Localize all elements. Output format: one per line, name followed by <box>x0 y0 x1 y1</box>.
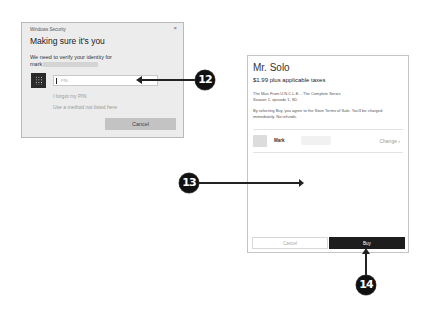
callout-13: 13 <box>179 173 199 193</box>
terms-text: By selecting Buy, you agree to the Store… <box>253 108 403 120</box>
product-title: Mr. Solo <box>253 62 290 73</box>
cancel-button[interactable]: Cancel <box>105 118 176 130</box>
change-label: Change <box>379 138 397 144</box>
avatar <box>253 135 267 147</box>
product-description: The Man From U.N.C.L.E. - The Complete S… <box>253 91 403 103</box>
product-price: $1.99 plus applicable taxes <box>253 77 325 83</box>
divider <box>253 129 403 130</box>
divider <box>253 152 403 153</box>
text-cursor <box>56 78 57 84</box>
callout-14-arrow <box>365 253 367 276</box>
dialog-heading: Making sure it's you <box>30 36 105 46</box>
change-payment-link[interactable]: Change › <box>379 138 400 144</box>
callout-12: 12 <box>195 70 215 90</box>
account-detail-redacted <box>301 136 331 145</box>
chevron-right-icon: › <box>398 138 400 144</box>
other-method-link[interactable]: Use a method not listed here <box>53 104 117 110</box>
callout-14: 14 <box>356 275 376 295</box>
cancel-button[interactable]: Cancel <box>252 237 328 249</box>
close-icon[interactable]: × <box>173 25 177 31</box>
verify-message-text: We need to verify your identity for <box>30 54 112 60</box>
series-name: The Man From U.N.C.L.E. - The Complete S… <box>253 91 341 96</box>
arrowhead-left-icon <box>136 76 142 84</box>
pin-keypad-icon <box>31 73 46 88</box>
callout-12-arrow <box>140 79 197 81</box>
callout-13-arrow <box>198 182 300 184</box>
arrowhead-right-icon <box>299 179 304 187</box>
payment-account-row[interactable]: Mark Change › <box>253 131 403 151</box>
purchase-dialog: Mr. Solo $1.99 plus applicable taxes The… <box>247 55 409 253</box>
pin-input[interactable]: PIN <box>53 75 158 86</box>
episode-info: Season 1, episode 1, SD <box>253 97 297 102</box>
forgot-pin-link[interactable]: I forgot my PIN <box>53 93 86 99</box>
arrowhead-up-icon <box>362 248 370 254</box>
account-name: mark <box>30 61 42 67</box>
verify-message: We need to verify your identity for mark <box>30 54 150 68</box>
account-email-redacted <box>43 62 98 67</box>
pin-placeholder: PIN <box>61 78 68 83</box>
account-name: Mark <box>274 138 285 143</box>
dialog-window-title: Windows Security <box>30 27 66 32</box>
